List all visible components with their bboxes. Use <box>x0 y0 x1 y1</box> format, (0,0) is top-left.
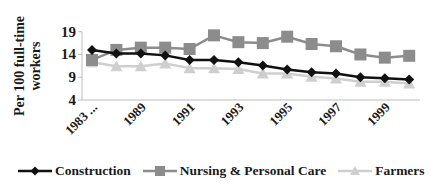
line-chart: Per 100 full-time workers 491419 1983 ..… <box>0 0 433 160</box>
series-nursing-personal-care <box>86 29 415 66</box>
legend-item-construction: Construction <box>18 163 131 179</box>
square-marker <box>184 43 196 55</box>
legend-label-construction: Construction <box>55 163 131 179</box>
diamond-marker <box>185 55 195 65</box>
square-marker <box>86 54 98 66</box>
y-tick-label: 9 <box>69 69 77 85</box>
diamond-marker <box>258 60 268 70</box>
x-tick-label: 1999 <box>364 99 393 128</box>
y-tick-label: 4 <box>69 92 77 108</box>
square-marker <box>330 40 342 52</box>
x-tick-label: 1997 <box>315 99 344 128</box>
legend: Construction Nursing & Personal Care Far… <box>18 162 433 180</box>
square-marker <box>232 36 244 48</box>
y-tick-label: 14 <box>61 46 77 62</box>
y-axis-title-line2: workers <box>28 41 43 91</box>
square-marker <box>354 48 366 60</box>
x-tick-label: 1995 <box>266 99 295 128</box>
x-tick-label: 1993 <box>218 99 247 128</box>
diamond-marker <box>209 55 219 65</box>
diamond-line-icon <box>18 165 52 177</box>
diamond-marker <box>233 57 243 67</box>
square-marker <box>379 52 391 64</box>
x-axis: 1983 ...198919911993199519971999 <box>62 99 420 138</box>
triangle-line-icon <box>338 165 372 177</box>
square-marker <box>281 31 293 43</box>
y-axis-title: Per 100 full-time workers <box>12 16 43 116</box>
diamond-marker <box>87 45 97 55</box>
square-marker <box>306 38 318 50</box>
y-tick-label: 19 <box>61 24 76 40</box>
square-marker <box>257 37 269 49</box>
series-farmers <box>86 56 415 88</box>
series-layer <box>86 29 415 88</box>
square-marker <box>208 29 220 41</box>
y-axis: 491419 <box>61 24 82 108</box>
legend-label-nursing: Nursing & Personal Care <box>180 163 326 179</box>
y-axis-title-line1: Per 100 full-time <box>12 16 27 116</box>
x-tick-label: 1989 <box>120 99 149 128</box>
legend-item-nursing: Nursing & Personal Care <box>143 163 326 179</box>
square-marker <box>403 50 415 62</box>
legend-label-farmers: Farmers <box>375 163 424 179</box>
x-tick-label: 1991 <box>169 100 198 129</box>
legend-item-farmers: Farmers <box>338 163 424 179</box>
square-line-icon <box>143 165 177 177</box>
